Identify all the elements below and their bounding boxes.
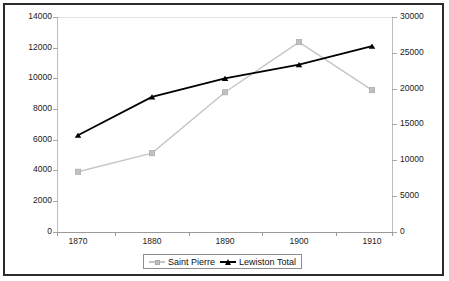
legend-item-saint-pierre[interactable]: Saint Pierre	[149, 257, 215, 267]
data-point-marker	[149, 151, 154, 156]
line-chart: 0 2000 4000 6000 8000 10000 12000 14000 …	[0, 0, 449, 281]
legend-label: Saint Pierre	[168, 257, 215, 267]
chart-legend: Saint Pierre Lewiston Total	[143, 254, 302, 269]
data-point-marker	[222, 90, 227, 95]
series-saint-pierre	[75, 39, 374, 174]
data-point-marker	[75, 169, 80, 174]
series-line	[78, 42, 372, 172]
legend-item-lewiston-total[interactable]: Lewiston Total	[220, 257, 296, 267]
data-point-marker	[369, 88, 374, 93]
legend-marker-triangle-icon	[220, 258, 236, 266]
legend-marker-square-icon	[149, 258, 165, 266]
legend-label: Lewiston Total	[239, 257, 296, 267]
series-layer	[0, 0, 449, 281]
data-point-marker	[296, 39, 301, 44]
